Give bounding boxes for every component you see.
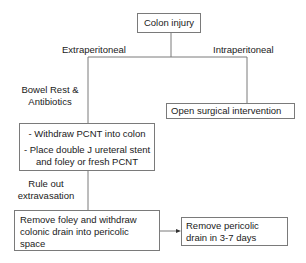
open-surgery-text: Open surgical intervention	[171, 105, 281, 116]
pcnt-step2-line2: and foley or fresh PCNT	[20, 156, 154, 168]
node-remove-foley: Remove foley and withdraw colonic drain …	[14, 210, 160, 251]
remove-drain-line1: Remove pericolic	[186, 220, 287, 232]
node-colon-injury: Colon injury	[137, 13, 201, 33]
remove-foley-line2: colonic drain into pericolic	[20, 226, 159, 238]
remove-drain-line2: drain in 3-7 days	[186, 232, 287, 244]
remove-foley-line1: Remove foley and withdraw	[20, 214, 159, 226]
edge-label-extraperitoneal: Extraperitoneal	[62, 44, 126, 56]
node-pcnt-management: - Withdraw PCNT into colon - Place doubl…	[19, 123, 155, 171]
rule-out-line2: extravasation	[14, 190, 78, 202]
pcnt-step2-line1: - Place double J ureteral stent	[20, 144, 154, 156]
intraperitoneal-text: Intraperitoneal	[213, 44, 274, 55]
node-open-surgical-intervention: Open surgical intervention	[166, 103, 295, 119]
node-colon-injury-text: Colon injury	[144, 17, 194, 28]
extraperitoneal-text: Extraperitoneal	[62, 44, 126, 55]
remove-foley-line3: space	[20, 238, 159, 250]
edge-label-intraperitoneal: Intraperitoneal	[213, 44, 274, 56]
node-remove-pericolic-drain: Remove pericolic drain in 3-7 days	[181, 217, 288, 246]
edge-label-rule-out: Rule out extravasation	[14, 178, 78, 202]
bowel-rest-line2: Antibiotics	[18, 96, 82, 108]
edge-label-bowel-rest: Bowel Rest & Antibiotics	[18, 84, 82, 108]
bowel-rest-line1: Bowel Rest &	[18, 84, 82, 96]
rule-out-line1: Rule out	[14, 178, 78, 190]
pcnt-step1-text: - Withdraw PCNT into colon	[20, 128, 154, 140]
